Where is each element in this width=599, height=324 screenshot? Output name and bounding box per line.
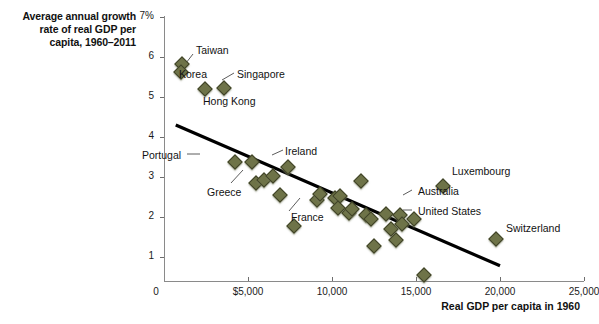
data-point-portugal (227, 154, 243, 170)
point-label-korea: Korea (179, 68, 207, 80)
y-tick-label: 6 (128, 50, 154, 61)
point-label-portugal: Portugal (142, 149, 181, 161)
data-point-singapore (216, 80, 232, 96)
point-label-singapore: Singapore (237, 68, 285, 80)
leader-line-france (289, 198, 300, 211)
data-point-ireland (281, 159, 297, 175)
x-axis-title: Real GDP per capita in 1960 (320, 300, 580, 312)
x-tick-label: 10,000 (317, 286, 348, 297)
data-point (353, 173, 369, 189)
y-tick-label: 5 (128, 90, 154, 101)
point-label-france: France (291, 211, 324, 223)
y-tick-mark (160, 217, 164, 218)
data-point (244, 154, 260, 170)
y-tick-label: 4 (128, 130, 154, 141)
point-label-ireland: Ireland (285, 145, 317, 157)
y-tick-label: 7% (120, 10, 154, 21)
data-point (378, 206, 394, 222)
point-label-hong-kong: Hong Kong (203, 95, 256, 107)
y-tick-mark (160, 97, 164, 98)
x-tick-mark (584, 277, 585, 281)
point-label-taiwan: Taiwan (196, 44, 229, 56)
y-tick-label: 1 (128, 250, 154, 261)
y-tick-mark (160, 257, 164, 258)
point-label-united-states: United States (418, 205, 481, 217)
leader-line-australia (403, 190, 412, 195)
x-axis-line (164, 281, 584, 282)
point-label-switzerland: Switzerland (506, 222, 560, 234)
point-label-luxembourg: Luxembourg (452, 165, 510, 177)
x-tick-mark (332, 277, 333, 281)
x-tick-mark (500, 277, 501, 281)
x-tick-mark (248, 277, 249, 281)
y-tick-label: 2 (128, 210, 154, 221)
y-tick-mark (160, 137, 164, 138)
x-tick-label: 25,000 (569, 286, 599, 297)
point-label-australia: Australia (418, 185, 459, 197)
y-tick-label: 3 (128, 170, 154, 181)
data-point (366, 238, 382, 254)
x-tick-label: $5,000 (233, 286, 264, 297)
y-tick-mark (160, 57, 164, 58)
y-axis-title: Average annual growth rate of real GDP p… (4, 10, 136, 49)
x-tick-label: 20,000 (485, 286, 516, 297)
y-tick-mark (160, 177, 164, 178)
x-tick-label: 15,000 (401, 286, 432, 297)
leader-line-greece (231, 170, 243, 183)
x-tick-mark (416, 277, 417, 281)
leader-line-singapore (222, 73, 234, 80)
data-point (272, 187, 288, 203)
leader-line-ireland (272, 150, 283, 155)
y-tick-mark (160, 17, 164, 18)
data-point-switzerland (488, 231, 504, 247)
x-tick-label: 0 (153, 286, 159, 297)
point-label-greece: Greece (207, 186, 241, 198)
